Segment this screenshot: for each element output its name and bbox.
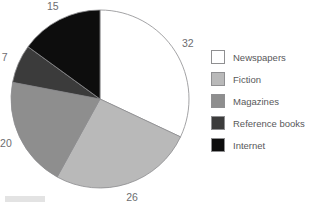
legend-swatch-reference-books — [211, 116, 225, 130]
pie-value-label-newspapers: 32 — [182, 37, 194, 49]
pie-value-label-fiction: 26 — [126, 191, 138, 203]
legend-label-reference-books: Reference books — [233, 118, 305, 129]
legend-label-fiction: Fiction — [233, 74, 261, 85]
legend-swatch-fiction — [211, 72, 225, 86]
legend-swatch-newspapers — [211, 50, 225, 64]
pie-value-label-magazines: 20 — [0, 137, 12, 149]
legend-label-newspapers: Newspapers — [233, 52, 286, 63]
legend-swatch-internet — [211, 138, 225, 152]
legend-item-reference-books[interactable]: Reference books — [211, 112, 316, 134]
chart-legend: Newspapers Fiction Magazines Reference b… — [211, 46, 316, 156]
pie-chart-figure: 322620715 Newspapers Fiction Magazines R… — [0, 0, 316, 204]
bottom-left-artifact-bar — [5, 196, 45, 202]
legend-label-magazines: Magazines — [233, 96, 279, 107]
pie-chart-svg: 322620715 — [0, 0, 200, 204]
legend-item-fiction[interactable]: Fiction — [211, 68, 316, 90]
legend-label-internet: Internet — [233, 140, 265, 151]
legend-item-newspapers[interactable]: Newspapers — [211, 46, 316, 68]
legend-item-magazines[interactable]: Magazines — [211, 90, 316, 112]
legend-item-internet[interactable]: Internet — [211, 134, 316, 156]
pie-slices-group — [11, 10, 189, 188]
pie-value-label-reference-books: 7 — [2, 51, 8, 63]
legend-swatch-magazines — [211, 94, 225, 108]
pie-value-label-internet: 15 — [47, 0, 59, 12]
